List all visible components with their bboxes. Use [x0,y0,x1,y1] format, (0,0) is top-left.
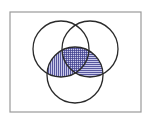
venn-diagram [0,0,150,117]
